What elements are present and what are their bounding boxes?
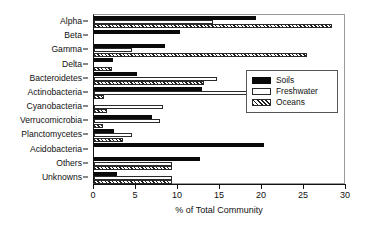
y-axis-tick <box>83 21 88 22</box>
legend-entry-soils: Soils <box>252 75 333 85</box>
bar-soils-gamma <box>94 44 165 48</box>
bar-oceans-alpha <box>94 24 332 28</box>
x-axis: 051015202530 <box>93 184 345 185</box>
y-axis-tick <box>83 134 88 135</box>
bar-soils-unknowns <box>94 172 117 176</box>
bar-freshwater-actinobacteria <box>94 91 256 95</box>
x-axis-tick-label: 25 <box>298 191 308 200</box>
bar-soils-bacteroidetes <box>94 72 137 76</box>
bar-soils-beta <box>94 30 180 34</box>
bar-oceans-planctomycetes <box>94 138 123 142</box>
x-axis-tick <box>135 184 136 189</box>
y-axis-tick <box>83 162 88 163</box>
bar-chart-figure: AlphaBetaGammaDeltaBacteroidetesActinoba… <box>0 0 366 235</box>
y-axis-tick <box>83 63 88 64</box>
bar-freshwater-verrucomicrobia <box>94 119 160 123</box>
bar-freshwater-planctomycetes <box>94 133 132 137</box>
chart-legend: SoilsFreshwaterOceans <box>246 70 338 113</box>
bar-oceans-verrucomicrobia <box>94 124 103 128</box>
bar-freshwater-bacteroidetes <box>94 77 217 81</box>
bar-oceans-bacteroidetes <box>94 81 204 85</box>
diagonal-hatch-swatch <box>252 99 271 106</box>
x-axis-tick-label: 30 <box>340 191 350 200</box>
bar-soils-acidobacteria <box>94 143 264 147</box>
y-axis-label-unknowns: Unknowns <box>42 173 82 182</box>
legend-label: Freshwater <box>276 87 318 95</box>
y-axis-tick <box>83 120 88 121</box>
x-axis-tick-label: 15 <box>214 191 224 200</box>
y-axis-label-acidobacteria: Acidobacteria <box>30 144 82 153</box>
y-axis-label-cyanobacteria: Cyanobacteria <box>27 102 82 111</box>
legend-entry-freshwater: Freshwater <box>252 86 333 96</box>
x-axis-tick <box>93 184 94 189</box>
x-axis-tick <box>219 184 220 189</box>
y-axis-tick <box>83 91 88 92</box>
y-axis-label-planctomycetes: Planctomycetes <box>21 130 82 139</box>
bar-soils-others <box>94 157 200 161</box>
y-axis-label-beta: Beta <box>64 31 82 40</box>
bar-soils-verrucomicrobia <box>94 115 152 119</box>
bar-soils-actinobacteria <box>94 87 202 91</box>
bar-freshwater-others <box>94 162 172 166</box>
y-axis-label-others: Others <box>56 158 82 167</box>
bar-freshwater-alpha <box>94 20 213 24</box>
x-axis-tick-label: 10 <box>172 191 182 200</box>
solid-black-swatch <box>252 77 271 84</box>
y-axis-label-alpha: Alpha <box>60 17 82 26</box>
bar-oceans-cyanobacteria <box>94 109 107 113</box>
x-axis-title: % of Total Community <box>93 205 345 215</box>
bar-soils-alpha <box>94 16 256 20</box>
x-axis-tick-label: 20 <box>256 191 266 200</box>
y-axis-label-bacteroidetes: Bacteroidetes <box>29 73 82 82</box>
bar-oceans-actinobacteria <box>94 95 104 99</box>
bar-soils-delta <box>94 58 113 62</box>
x-axis-tick-label: 0 <box>90 191 95 200</box>
bar-freshwater-cyanobacteria <box>94 105 163 109</box>
y-axis-label-delta: Delta <box>62 59 82 68</box>
y-axis-label-verrucomicrobia: Verrucomicrobia <box>20 116 82 125</box>
open-white-swatch <box>252 88 271 95</box>
bar-soils-planctomycetes <box>94 129 114 133</box>
bar-freshwater-gamma <box>94 48 132 52</box>
y-axis-label-actinobacteria: Actinobacteria <box>28 88 82 97</box>
x-axis-tick-label: 5 <box>132 191 137 200</box>
bar-oceans-others <box>94 166 172 170</box>
x-axis-tick <box>345 184 346 189</box>
y-axis-tick <box>83 77 88 78</box>
legend-entry-oceans: Oceans <box>252 97 333 107</box>
bar-oceans-delta <box>94 67 112 71</box>
x-axis-tick <box>303 184 304 189</box>
y-axis-label-gamma: Gamma <box>51 45 82 54</box>
legend-label: Soils <box>276 76 294 84</box>
y-axis-category-labels: AlphaBetaGammaDeltaBacteroidetesActinoba… <box>0 14 88 184</box>
x-axis-tick <box>177 184 178 189</box>
y-axis-tick <box>83 35 88 36</box>
y-axis-tick <box>83 176 88 177</box>
y-axis-tick <box>83 106 88 107</box>
x-axis-tick <box>261 184 262 189</box>
bar-oceans-gamma <box>94 53 307 57</box>
legend-label: Oceans <box>276 98 305 106</box>
y-axis-tick <box>83 49 88 50</box>
bar-freshwater-unknowns <box>94 176 172 180</box>
y-axis-tick <box>83 148 88 149</box>
